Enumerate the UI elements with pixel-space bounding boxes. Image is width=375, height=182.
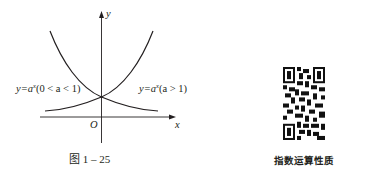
x-axis-label: x [175, 120, 180, 131]
growth-curve-label: y=ax(a > 1) [139, 83, 187, 95]
qr-code[interactable] [283, 67, 325, 140]
qr-caption: 指数运算性质 [270, 153, 338, 167]
decay-curve [50, 31, 158, 111]
decay-curve-label: y=ax(0 < a < 1) [16, 83, 80, 95]
y-axis-arrow-icon [99, 11, 104, 18]
y-axis-label: y [106, 9, 111, 20]
origin-label: O [90, 120, 98, 131]
growth-curve [45, 31, 153, 111]
qr-code-icon [283, 67, 325, 140]
exponential-function-figure: y x O y=ax(0 < a < 1) y=ax(a > 1) 图 1 – … [0, 0, 200, 182]
figure-caption: 图 1 – 25 [69, 150, 110, 166]
